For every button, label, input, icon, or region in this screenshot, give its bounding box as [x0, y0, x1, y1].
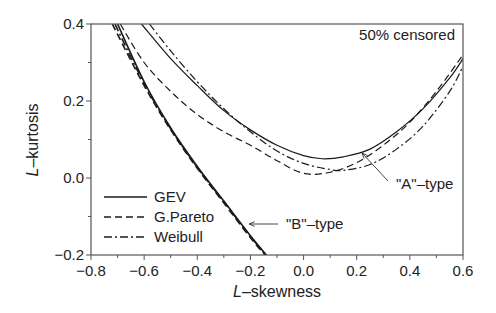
- y-tick-label: 0.2: [63, 92, 84, 109]
- x-tick-label: 0.0: [293, 262, 314, 279]
- legend-label: G.Pareto: [154, 208, 214, 225]
- x-tick-label: −0.2: [236, 262, 266, 279]
- x-tick-label: −0.4: [182, 262, 212, 279]
- x-axis-label: L–skewness: [233, 283, 321, 300]
- legend-label: Weibull: [154, 228, 203, 245]
- a-type-label: "A"–type: [396, 175, 453, 192]
- legend: GEVG.ParetoWeibull: [104, 188, 214, 245]
- curve-gev-a-type: [141, 24, 463, 159]
- axis-ticks: −0.8−0.6−0.4−0.20.00.20.40.6−0.20.00.20.…: [54, 15, 473, 279]
- x-tick-label: 0.6: [453, 262, 474, 279]
- curve-weibull-a-type: [149, 24, 463, 171]
- x-tick-label: 0.2: [346, 262, 367, 279]
- legend-label: GEV: [154, 188, 186, 205]
- censored-annotation: 50% censored: [359, 26, 455, 43]
- y-axis-label: L–kurtosis: [24, 104, 41, 177]
- b-type-label: "B"–type: [286, 215, 343, 232]
- y-tick-label: −0.2: [54, 246, 84, 263]
- y-tick-label: 0.4: [63, 15, 84, 32]
- y-tick-label: 0.0: [63, 169, 84, 186]
- x-tick-label: −0.6: [129, 262, 159, 279]
- x-tick-label: 0.4: [399, 262, 420, 279]
- chart: −0.8−0.6−0.4−0.20.00.20.40.6−0.20.00.20.…: [0, 0, 496, 313]
- plot-frame: [91, 24, 463, 255]
- x-tick-label: −0.8: [76, 262, 106, 279]
